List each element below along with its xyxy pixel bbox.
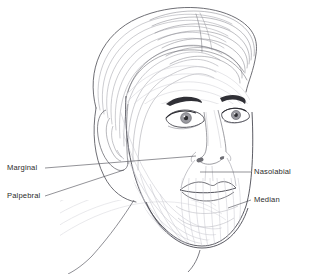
label-marginal: Marginal [7, 163, 37, 172]
canvas-background [0, 0, 310, 274]
face-illustration [0, 0, 310, 274]
figure-root: Marginal Palpebral Nasolabial Median [0, 0, 310, 274]
label-palpebral: Palpebral [7, 191, 40, 200]
eye-right [222, 108, 250, 123]
label-nasolabial: Nasolabial [254, 167, 291, 176]
label-median: Median [254, 195, 280, 204]
